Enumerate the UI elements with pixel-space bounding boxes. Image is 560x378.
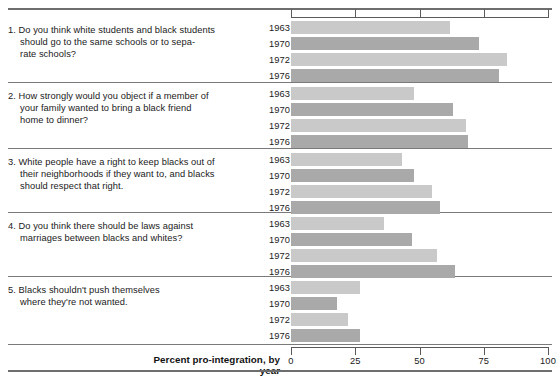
year-label-column: 1963197019721976	[262, 216, 290, 280]
year-label: 1970	[262, 296, 290, 312]
year-label: 1970	[262, 232, 290, 248]
bar	[291, 53, 507, 66]
year-label: 1963	[262, 216, 290, 232]
year-label: 1970	[262, 36, 290, 52]
bar	[291, 233, 412, 246]
question-block: 4. Do you think there should be laws aga…	[8, 220, 276, 244]
bar	[291, 87, 414, 100]
year-label-column: 1963197019721976	[262, 20, 290, 84]
bar	[291, 135, 468, 148]
bar	[291, 185, 432, 198]
bar	[291, 21, 450, 34]
question-block: 1. Do you think white students and black…	[8, 24, 276, 61]
bar	[291, 69, 499, 82]
year-label: 1972	[262, 52, 290, 68]
bar-chart: 1. Do you think white students and black…	[0, 0, 560, 378]
year-label-column: 1963197019721976	[262, 86, 290, 150]
plot-area	[291, 0, 548, 378]
year-label: 1972	[262, 184, 290, 200]
bar	[291, 37, 479, 50]
bar	[291, 265, 455, 278]
year-label: 1963	[262, 86, 290, 102]
year-label: 1976	[262, 200, 290, 216]
axis-tick-bottom	[291, 347, 292, 355]
bar	[291, 329, 360, 342]
year-label: 1976	[262, 264, 290, 280]
question-text: 5. Blacks shouldn't push themselves wher…	[8, 284, 276, 308]
year-label-column: 1963197019721976	[262, 152, 290, 216]
year-label: 1972	[262, 248, 290, 264]
question-text: 2. How strongly would you object if a me…	[8, 90, 276, 127]
question-text: 1. Do you think white students and black…	[8, 24, 276, 61]
bar	[291, 119, 466, 132]
year-label: 1970	[262, 102, 290, 118]
axis-tick-label: 50	[405, 356, 435, 366]
bar	[291, 313, 348, 326]
year-label: 1972	[262, 118, 290, 134]
axis-tick-bottom	[484, 347, 485, 355]
question-block: 2. How strongly would you object if a me…	[8, 90, 276, 127]
axis-tick-label: 75	[469, 356, 499, 366]
bar	[291, 169, 414, 182]
rule-bottom	[8, 370, 552, 372]
axis-tick-label: 0	[276, 356, 306, 366]
bar	[291, 153, 402, 166]
axis-tick-bottom	[420, 347, 421, 355]
bar	[291, 217, 384, 230]
question-text: 3. White people have a right to keep bla…	[8, 156, 276, 193]
bar	[291, 201, 440, 214]
axis-tick-label: 100	[533, 356, 560, 366]
axis-tick-bottom	[355, 347, 356, 355]
bar	[291, 281, 360, 294]
year-label: 1972	[262, 312, 290, 328]
axis-tick-label: 25	[340, 356, 370, 366]
question-block: 5. Blacks shouldn't push themselves wher…	[8, 284, 276, 308]
bar	[291, 249, 437, 262]
year-label-column: 1963197019721976	[262, 280, 290, 344]
bar	[291, 297, 337, 310]
year-label: 1970	[262, 168, 290, 184]
axis-title: Percent pro-integration, by year	[140, 354, 280, 376]
bar	[291, 103, 453, 116]
year-label: 1976	[262, 328, 290, 344]
year-label: 1963	[262, 280, 290, 296]
axis-tick-bottom	[548, 347, 549, 355]
year-label: 1963	[262, 152, 290, 168]
question-block: 3. White people have a right to keep bla…	[8, 156, 276, 193]
question-text: 4. Do you think there should be laws aga…	[8, 220, 276, 244]
year-label: 1963	[262, 20, 290, 36]
axis-tick-top	[548, 9, 549, 17]
